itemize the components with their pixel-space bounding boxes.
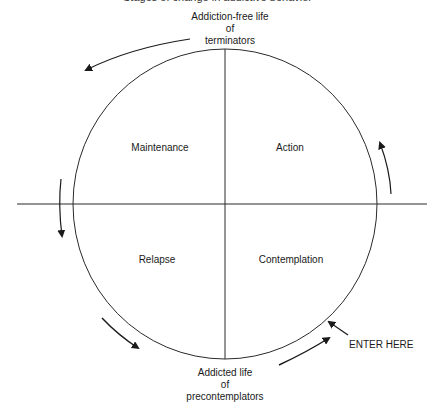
quadrant-maintenance: Maintenance	[131, 142, 188, 154]
top-label-line-1: Addiction-free life	[165, 11, 295, 23]
top-label-line-2: of	[165, 23, 295, 35]
arrow-right-icon	[380, 143, 391, 194]
arrow-bottom-right-icon	[279, 338, 329, 365]
enter-here-pointer-icon	[329, 322, 348, 335]
bottom-label-line-3: precontemplators	[160, 391, 290, 403]
quadrant-action: Action	[276, 142, 304, 154]
bottom-label-line-2: of	[160, 379, 290, 391]
arrow-left-icon	[60, 179, 62, 236]
quadrant-contemplation: Contemplation	[259, 254, 323, 266]
bottom-label: Addicted life of precontemplators	[160, 367, 290, 403]
bottom-label-line-1: Addicted life	[160, 367, 290, 379]
quadrant-relapse: Relapse	[139, 254, 176, 266]
top-label: Addiction-free life of terminators	[165, 11, 295, 47]
top-label-line-3: terminators	[165, 35, 295, 47]
enter-here-label: ENTER HERE	[349, 339, 413, 351]
arrow-bottom-left-icon	[102, 318, 138, 348]
